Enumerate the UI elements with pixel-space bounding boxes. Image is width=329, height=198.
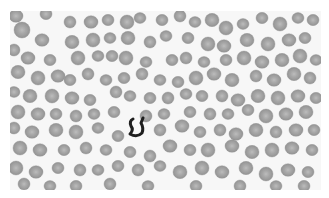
red-blood-cell: [195, 161, 209, 175]
red-blood-cell: [261, 37, 275, 51]
red-blood-cell: [239, 161, 253, 174]
red-blood-cell: [156, 14, 168, 25]
red-blood-cell: [198, 57, 210, 68]
blood-smear-image: [0, 0, 329, 198]
red-blood-cell: [265, 143, 279, 157]
red-blood-cell: [100, 75, 112, 86]
red-blood-cell: [219, 21, 233, 35]
red-blood-cell: [310, 55, 322, 66]
red-blood-cell: [270, 126, 282, 138]
red-blood-cell: [220, 54, 232, 65]
red-blood-cell: [86, 33, 100, 47]
red-blood-cell: [65, 92, 79, 105]
red-blood-cell: [92, 51, 104, 62]
red-blood-cell: [158, 109, 170, 120]
red-blood-cell: [136, 68, 148, 80]
red-blood-cell: [64, 74, 76, 85]
red-blood-cell: [307, 14, 319, 25]
red-blood-cell: [270, 181, 282, 192]
red-blood-cell: [33, 144, 47, 157]
red-blood-cell: [225, 140, 239, 153]
red-blood-cell: [174, 10, 186, 22]
red-blood-cell: [172, 76, 184, 87]
red-blood-cell: [298, 180, 310, 191]
red-blood-cell: [154, 161, 166, 172]
red-blood-cell: [11, 65, 25, 78]
red-blood-cell: [190, 180, 202, 191]
red-blood-cell: [100, 145, 112, 156]
red-blood-cell: [189, 71, 203, 85]
red-blood-cell: [11, 105, 25, 119]
red-blood-cell: [222, 109, 234, 120]
red-blood-cell: [31, 108, 45, 121]
red-blood-cell: [214, 124, 226, 136]
red-blood-cell: [44, 181, 56, 192]
red-blood-cell: [69, 125, 83, 139]
red-blood-cell: [180, 52, 192, 64]
red-blood-cell: [166, 54, 178, 65]
red-blood-cell: [144, 92, 156, 103]
red-blood-cell: [70, 180, 82, 191]
red-blood-cell: [204, 108, 216, 120]
red-blood-cell: [29, 166, 43, 179]
red-blood-cell: [173, 165, 187, 178]
red-blood-cell: [112, 130, 124, 141]
red-blood-cell: [275, 53, 289, 66]
red-blood-cell: [65, 35, 79, 48]
red-blood-cell: [215, 166, 229, 179]
red-blood-cell: [108, 106, 120, 117]
red-blood-cell: [289, 124, 303, 137]
red-blood-cell: [184, 144, 196, 155]
red-blood-cell: [231, 94, 245, 107]
red-blood-cell: [120, 15, 134, 29]
red-blood-cell: [240, 33, 254, 46]
red-blood-cell: [124, 146, 136, 157]
red-blood-cell: [196, 90, 208, 101]
red-blood-cell: [9, 161, 23, 175]
red-blood-cell: [271, 91, 285, 105]
red-blood-cell: [31, 71, 45, 85]
red-blood-cell: [282, 34, 296, 47]
red-blood-cell: [13, 141, 27, 155]
red-blood-cell: [308, 124, 320, 135]
red-blood-cell: [160, 31, 172, 42]
red-blood-cell: [256, 12, 268, 23]
red-blood-cell: [259, 109, 273, 123]
red-blood-cell: [132, 164, 144, 176]
red-blood-cell: [249, 123, 263, 136]
red-blood-cell: [142, 181, 154, 192]
red-blood-cell: [121, 31, 135, 44]
red-blood-cell: [162, 92, 174, 104]
red-blood-cell: [304, 72, 316, 84]
red-blood-cell: [18, 178, 30, 190]
red-blood-cell: [110, 86, 122, 98]
red-blood-cell: [50, 108, 62, 119]
red-blood-cell: [251, 89, 265, 102]
red-blood-cell: [140, 57, 152, 68]
red-blood-cell: [84, 94, 96, 105]
red-blood-cell: [80, 142, 92, 154]
red-blood-cell: [23, 89, 37, 102]
red-blood-cell: [292, 13, 304, 24]
red-blood-cell: [71, 51, 85, 65]
red-blood-cell: [175, 120, 189, 133]
red-blood-cell: [70, 110, 82, 122]
red-blood-cell: [237, 19, 249, 30]
red-blood-cell: [242, 104, 254, 115]
red-blood-cell: [112, 160, 124, 171]
red-blood-cell: [201, 143, 215, 157]
red-blood-cell: [154, 75, 166, 86]
red-blood-cell: [9, 10, 23, 23]
red-blood-cell: [259, 167, 273, 181]
red-blood-cell: [51, 70, 65, 83]
red-blood-cell: [217, 40, 231, 53]
red-blood-cell: [184, 106, 196, 117]
red-blood-cell: [84, 16, 98, 29]
red-blood-cell: [92, 123, 104, 134]
red-blood-cell: [25, 126, 39, 139]
red-blood-cell: [88, 109, 100, 120]
red-blood-cell: [119, 51, 133, 65]
red-blood-cell: [281, 164, 295, 177]
red-blood-cell: [104, 178, 116, 190]
red-blood-cell: [194, 126, 206, 137]
